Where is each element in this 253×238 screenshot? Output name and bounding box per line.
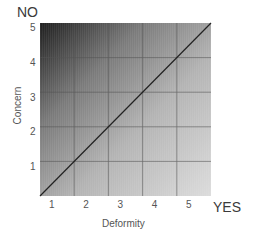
x-tick-label: 4 xyxy=(152,199,158,210)
x-axis-title: Deformity xyxy=(102,218,145,229)
x-tick-label: 3 xyxy=(118,199,124,210)
yes-label: YES xyxy=(213,199,241,215)
y-tick-label: 2 xyxy=(30,126,36,137)
x-tick-label: 5 xyxy=(186,199,192,210)
y-tick-label: 1 xyxy=(30,161,36,172)
x-tick-label: 1 xyxy=(49,199,55,210)
x-tick-label: 2 xyxy=(83,199,89,210)
y-tick-label: 4 xyxy=(30,57,36,68)
no-label: NO xyxy=(17,4,38,20)
y-tick-label: 5 xyxy=(30,22,36,33)
y-tick-label: 3 xyxy=(30,92,36,103)
y-axis-title: Concern xyxy=(12,81,23,131)
